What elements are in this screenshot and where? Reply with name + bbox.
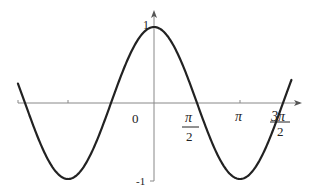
x-label-pi: π	[235, 109, 243, 124]
y-label-minus-one: -1	[136, 175, 145, 187]
cosine-chart: 1 -1 0 π 2 π 3π 2	[0, 0, 316, 193]
origin-label: 0	[132, 111, 139, 126]
x-label-half-pi-numerator: π	[185, 110, 193, 125]
x-label-three-half-pi-denominator: 2	[277, 124, 284, 139]
x-label-half-pi-denominator: 2	[186, 129, 193, 144]
y-label-one: 1	[143, 18, 149, 32]
